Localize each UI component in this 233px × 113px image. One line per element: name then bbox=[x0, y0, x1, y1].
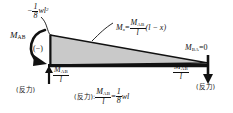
peak-moment-tail: wl bbox=[38, 6, 46, 15]
reaction-left-fraction: MABl bbox=[53, 66, 69, 84]
moment-function-label: Mx=MABl(l − x) bbox=[116, 19, 166, 37]
reaction-equation-label: (反力):MABl=18wl bbox=[74, 88, 129, 106]
moment-arc-arrowhead bbox=[33, 55, 47, 66]
reaction-right-label: MABl bbox=[173, 63, 189, 81]
end-moment-left-label: MAB bbox=[10, 31, 26, 41]
moment-function-fraction: MABl bbox=[130, 19, 146, 37]
reaction-equation-prefix: (反力): bbox=[74, 93, 95, 101]
reaction-left-label: MABl bbox=[53, 66, 69, 84]
reaction-equation-lhs-fraction: MABl bbox=[95, 88, 111, 106]
peak-moment-label: −18wl2 bbox=[27, 3, 48, 20]
peak-moment-exponent: 2 bbox=[46, 7, 48, 12]
leader-line-mx bbox=[92, 23, 113, 41]
bending-moment-diagram: −18wl2 MAB (−) Mx=MABl(l − x) MBA=0 MABl… bbox=[0, 0, 233, 113]
reaction-left-caption: (反力) bbox=[16, 87, 35, 94]
reaction-right-fraction: MABl bbox=[173, 63, 189, 81]
end-moment-right-label: MBA=0 bbox=[185, 44, 207, 53]
reaction-right-caption: (反力) bbox=[196, 84, 215, 91]
sign-marker-label: (−) bbox=[33, 45, 43, 53]
